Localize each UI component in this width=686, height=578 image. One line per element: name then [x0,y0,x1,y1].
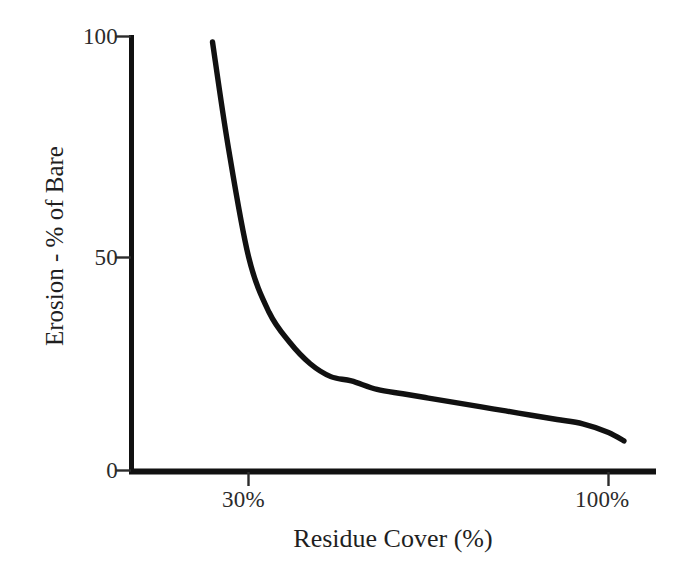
y-tick-label-100: 100 [83,24,118,50]
y-tick-label-50: 50 [95,245,118,271]
erosion-curve [213,42,624,441]
x-tick-label-100: 100% [575,487,629,513]
x-axis-title: Residue Cover (%) [130,524,656,554]
y-tick-label-0: 0 [106,458,118,484]
x-tick-label-30: 30% [222,487,265,513]
y-axis-title: Erosion - % of Bare [41,81,69,411]
erosion-residue-chart: 100 50 0 30% 100% Erosion - % of Bare Re… [0,0,686,578]
